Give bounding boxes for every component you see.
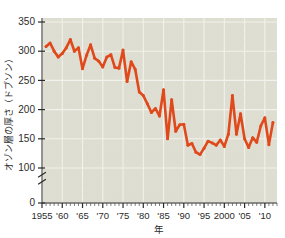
x-tick-label: '65 — [76, 210, 88, 221]
data-point — [101, 65, 104, 68]
data-point — [182, 123, 185, 126]
data-point — [61, 52, 64, 55]
x-tick-label: 1955 — [31, 210, 52, 221]
x-tick-label: '10 — [259, 210, 271, 221]
x-axis-ticks: 1955'60'65'70'75'80'85'90'952000'05'10 — [31, 203, 277, 221]
x-tick-label: '05 — [238, 210, 250, 221]
data-point — [239, 112, 242, 115]
data-point — [89, 43, 92, 46]
data-point — [158, 115, 161, 118]
data-point — [126, 80, 129, 83]
x-tick-label: '95 — [198, 210, 210, 221]
data-point — [227, 133, 230, 136]
data-point — [263, 116, 266, 119]
data-point — [69, 38, 72, 41]
data-point — [53, 50, 56, 53]
x-tick-label: '60 — [56, 210, 68, 221]
data-point — [271, 121, 274, 124]
data-point — [255, 141, 258, 144]
ozone-thickness-line-chart: 0100150200250300350 1955'60'65'70'75'80'… — [0, 0, 285, 238]
data-point — [49, 42, 52, 45]
x-tick-label: '75 — [117, 210, 129, 221]
data-point — [186, 144, 189, 147]
data-point — [178, 123, 181, 126]
data-point — [170, 98, 173, 101]
data-point — [138, 91, 141, 94]
data-point — [231, 94, 234, 97]
data-point — [199, 153, 202, 156]
data-point — [150, 111, 153, 114]
data-point — [251, 136, 254, 139]
data-point — [243, 137, 246, 140]
data-point — [174, 130, 177, 133]
data-point — [109, 53, 112, 56]
data-point — [235, 133, 238, 136]
y-tick-label: 0 — [29, 197, 35, 208]
data-point — [194, 151, 197, 154]
y-tick-label: 250 — [18, 75, 35, 86]
data-point — [203, 147, 206, 150]
y-tick-label: 150 — [18, 133, 35, 144]
chart-figure: 0100150200250300350 1955'60'65'70'75'80'… — [0, 0, 285, 238]
data-point — [190, 142, 193, 145]
data-point — [45, 45, 48, 48]
data-point — [122, 49, 125, 52]
data-point — [154, 107, 157, 110]
data-point — [211, 141, 214, 144]
data-point — [259, 124, 262, 127]
data-point — [142, 94, 145, 97]
data-point — [105, 56, 108, 59]
data-point — [162, 88, 165, 91]
y-tick-label: 300 — [18, 45, 35, 56]
data-point — [146, 102, 149, 105]
y-axis-label: オゾン層の厚さ（ドブソン） — [3, 54, 14, 171]
y-tick-label: 200 — [18, 104, 35, 115]
y-axis-ticks: 0100150200250300350 — [18, 16, 45, 208]
data-point — [113, 66, 116, 69]
data-point — [73, 50, 76, 53]
data-point — [166, 137, 169, 140]
y-tick-label: 100 — [18, 162, 35, 173]
data-point — [65, 46, 68, 49]
data-point — [219, 138, 222, 141]
data-point — [207, 140, 210, 143]
data-point — [134, 68, 137, 71]
data-point — [117, 67, 120, 70]
data-point — [81, 67, 84, 70]
data-point — [85, 54, 88, 57]
data-point — [247, 146, 250, 149]
x-tick-label: '80 — [137, 210, 149, 221]
x-tick-label: 2000 — [214, 210, 235, 221]
x-axis-label: 年 — [154, 224, 164, 235]
data-point — [267, 143, 270, 146]
x-tick-label: '85 — [157, 210, 169, 221]
data-point — [130, 60, 133, 63]
data-point — [97, 60, 100, 63]
data-point — [223, 145, 226, 148]
x-tick-label: '70 — [97, 210, 109, 221]
data-point — [77, 46, 80, 49]
y-tick-label: 350 — [18, 16, 35, 27]
data-point — [93, 57, 96, 60]
data-point — [215, 144, 218, 147]
x-tick-label: '90 — [178, 210, 190, 221]
data-point — [57, 56, 60, 59]
